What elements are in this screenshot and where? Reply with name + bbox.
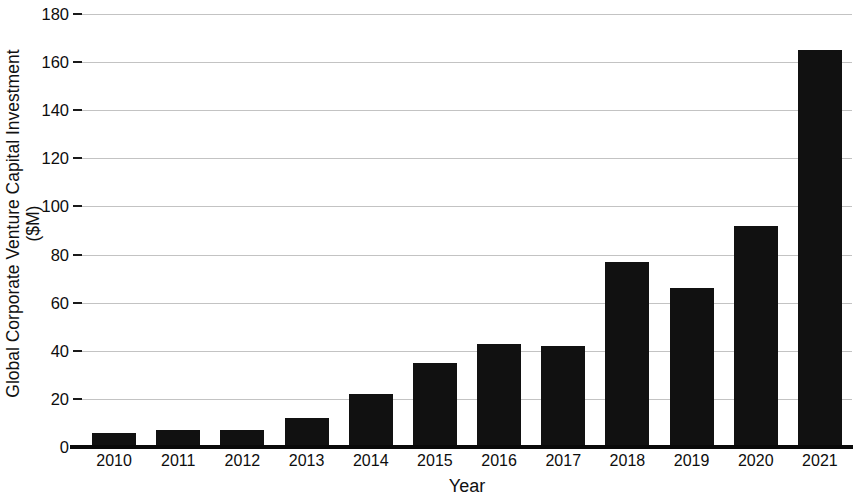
bar [285, 418, 329, 447]
x-axis-tick-label: 2012 [225, 452, 261, 470]
y-axis-tick-mark [73, 254, 82, 256]
bar [605, 262, 649, 447]
bar [477, 344, 521, 447]
y-axis-tick-label: 140 [41, 101, 69, 120]
x-axis-tick-label: 2020 [738, 452, 774, 470]
bar [349, 394, 393, 447]
y-axis-tick-mark [73, 302, 82, 304]
bar-slot [275, 14, 339, 447]
y-axis-tick-label: 80 [51, 245, 69, 264]
y-axis-tick-labels: 020406080100120140160180 [0, 0, 82, 447]
y-axis-tick-label: 100 [41, 197, 69, 216]
y-axis-tick-label: 180 [41, 5, 69, 24]
bar-slot [403, 14, 467, 447]
bar [734, 226, 778, 447]
bar-slot [660, 14, 724, 447]
x-axis-tick-label: 2011 [161, 452, 195, 470]
x-axis-tick-label: 2010 [96, 452, 132, 470]
bar-slot [210, 14, 274, 447]
y-axis-tick-mark [73, 398, 82, 400]
bar [798, 50, 842, 447]
y-axis-tick-label: 40 [51, 341, 69, 360]
bar-chart-figure: Global Corporate Venture Capital Investm… [0, 0, 857, 501]
x-axis-tick-label: 2015 [417, 452, 453, 470]
bar-slot [531, 14, 595, 447]
bar-slot [146, 14, 210, 447]
x-axis-title: Year [82, 476, 852, 497]
bar-slot [788, 14, 852, 447]
bar [413, 363, 457, 447]
x-axis-tick-label: 2016 [481, 452, 517, 470]
bar [670, 288, 714, 447]
y-axis-tick-label: 20 [51, 389, 69, 408]
y-axis-tick-mark [73, 157, 82, 159]
y-axis-tick-mark [73, 350, 82, 352]
y-axis-tick-label: 0 [60, 438, 69, 457]
y-axis-tick-mark [73, 109, 82, 111]
x-axis-tick-label: 2019 [674, 452, 710, 470]
y-axis-tick-label: 160 [41, 53, 69, 72]
bar-slot [82, 14, 146, 447]
bar-slot [724, 14, 788, 447]
x-axis-tick-label: 2021 [802, 452, 838, 470]
y-axis-tick-mark [73, 205, 82, 207]
x-axis-tick-label: 2018 [610, 452, 646, 470]
y-axis-tick-label: 120 [41, 149, 69, 168]
x-axis-line [70, 445, 853, 449]
y-axis-tick-mark [73, 13, 82, 15]
x-axis-tick-labels: 2010201120122013201420152016201720182019… [82, 452, 852, 476]
bar-slot [339, 14, 403, 447]
bar-series [82, 14, 852, 447]
x-axis-tick-label: 2014 [353, 452, 389, 470]
y-axis-tick-mark [73, 61, 82, 63]
bar [541, 346, 585, 447]
x-axis-tick-label: 2013 [289, 452, 325, 470]
bar-slot [595, 14, 659, 447]
x-axis-tick-label: 2017 [545, 452, 581, 470]
y-axis-tick-label: 60 [51, 293, 69, 312]
bar-slot [467, 14, 531, 447]
